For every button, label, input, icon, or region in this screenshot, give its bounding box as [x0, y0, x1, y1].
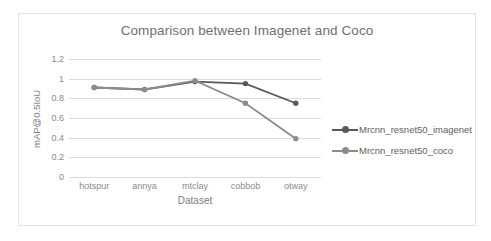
y-tick-label: 1 [59, 74, 64, 84]
x-axis-title: Dataset [69, 195, 321, 206]
plot-area [69, 59, 321, 177]
y-tick-label: 0 [59, 172, 64, 182]
y-tick-label: 1.2 [51, 54, 64, 64]
y-axis-tick-labels: 00.20.40.60.811.2 [35, 59, 67, 177]
x-axis-tick-labels: hotspurannyamtclaycobbobotway [69, 181, 321, 195]
x-tick-label: annya [132, 181, 157, 191]
chart-title: Comparison between Imagenet and Coco [19, 23, 475, 38]
legend-marker-icon [332, 146, 358, 156]
gridline [69, 177, 321, 178]
data-point [243, 101, 248, 106]
x-tick-label: otway [284, 181, 308, 191]
legend-item[interactable]: Mrcnn_resnet50_imagenet [332, 119, 470, 140]
y-tick-label: 0.6 [51, 113, 64, 123]
legend-item[interactable]: Mrcnn_resnet50_coco [332, 140, 470, 161]
x-tick-label: cobbob [231, 181, 261, 191]
series-lines [69, 59, 321, 177]
data-point [192, 78, 197, 83]
data-point [142, 87, 147, 92]
x-tick-label: hotspur [79, 181, 109, 191]
chart-legend: Mrcnn_resnet50_imagenetMrcnn_resnet50_co… [332, 119, 470, 161]
y-tick-label: 0.2 [51, 152, 64, 162]
legend-marker-icon [332, 125, 358, 135]
y-tick-label: 0.4 [51, 133, 64, 143]
x-tick-label: mtclay [182, 181, 208, 191]
legend-label: Mrcnn_resnet50_imagenet [359, 124, 472, 135]
legend-label: Mrcnn_resnet50_coco [359, 145, 453, 156]
chart-card: Comparison between Imagenet and Coco mAP… [18, 13, 476, 226]
data-point [293, 101, 298, 106]
data-point [293, 136, 298, 141]
data-point [92, 85, 97, 90]
series-line [94, 82, 296, 104]
data-point [243, 81, 248, 86]
series-line [94, 81, 296, 139]
y-tick-label: 0.8 [51, 93, 64, 103]
